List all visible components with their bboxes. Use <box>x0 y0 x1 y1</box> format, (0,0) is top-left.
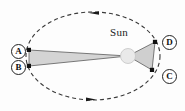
sector-ab-shape <box>29 50 128 66</box>
sun-disc <box>121 49 136 64</box>
point-marker-a <box>27 48 31 52</box>
point-label-d: D <box>162 35 177 50</box>
sun-text-label: Sun <box>110 26 128 38</box>
point-label-a: A <box>11 44 26 59</box>
point-marker-c <box>150 68 154 72</box>
orbit-diagram-canvas <box>0 0 185 111</box>
point-marker-d <box>153 40 157 44</box>
point-marker-b <box>27 64 31 68</box>
point-label-c: C <box>162 69 177 84</box>
arrow-bottom-icon <box>86 98 96 102</box>
point-label-b: B <box>11 60 26 75</box>
orbit-diagram: Sun S A B C D <box>0 0 185 111</box>
